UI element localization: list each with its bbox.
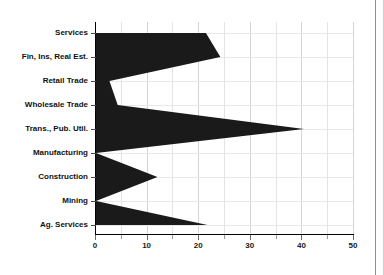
- category-label-1: Fin, Ins, Real Est.: [0, 52, 88, 61]
- x-tick-label-40: 40: [281, 241, 321, 251]
- category-label-5: Manufacturing: [0, 148, 88, 157]
- x-tick-label-10: 10: [127, 241, 167, 251]
- x-tick-20: [198, 235, 199, 240]
- x-tick-25: [224, 235, 225, 239]
- x-tick-40: [301, 235, 302, 240]
- y-tick-4: [91, 129, 96, 130]
- x-tick-45: [327, 235, 328, 239]
- category-label-6: Construction: [0, 172, 88, 181]
- y-tick-5: [91, 153, 96, 154]
- category-label-7: Mining: [0, 196, 88, 205]
- x-tick-label-50: 50: [333, 241, 373, 251]
- y-tick-7: [91, 201, 96, 202]
- chart-page: 01020304050 ServicesFin, Ins, Real Est.R…: [0, 0, 384, 275]
- y-tick-1: [91, 57, 96, 58]
- y-tick-8: [91, 225, 96, 226]
- category-label-4: Trans., Pub. Util.: [0, 124, 88, 133]
- x-tick-label-30: 30: [230, 241, 270, 251]
- x-tick-30: [250, 235, 251, 240]
- y-tick-2: [91, 81, 96, 82]
- x-tick-35: [276, 235, 277, 239]
- x-tick-10: [147, 235, 148, 240]
- x-tick-label-20: 20: [178, 241, 218, 251]
- x-tick-15: [172, 235, 173, 239]
- x-tick-0: [95, 235, 96, 240]
- y-tick-3: [91, 105, 96, 106]
- category-label-0: Services: [0, 28, 88, 37]
- y-tick-6: [91, 177, 96, 178]
- series-area-shape: [95, 22, 353, 234]
- x-tick-label-0: 0: [75, 241, 115, 251]
- x-tick-5: [121, 235, 122, 239]
- category-label-8: Ag. Services: [0, 220, 88, 229]
- y-tick-0: [91, 33, 96, 34]
- gridline-x-50: [353, 22, 354, 234]
- category-label-3: Wholesale Trade: [0, 100, 88, 109]
- page-edge-line: [375, 0, 376, 275]
- series-polygon: [95, 33, 304, 225]
- plot-area: [95, 22, 353, 234]
- category-label-2: Retail Trade: [0, 76, 88, 85]
- x-tick-50: [353, 235, 354, 240]
